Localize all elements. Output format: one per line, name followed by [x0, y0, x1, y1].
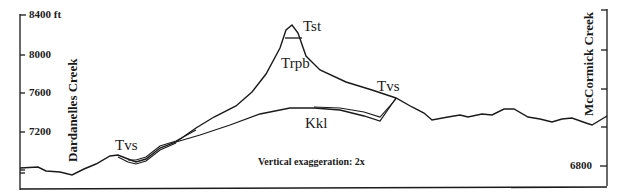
tick-label-6800: 6800: [570, 159, 592, 171]
baseline: [20, 187, 607, 189]
tick-label-8400: 8400 ft: [29, 8, 61, 20]
unit-label-kkl: Kkl: [305, 115, 328, 132]
ground-surface-line: [20, 25, 607, 175]
unit-label-trpb: Trpb: [281, 55, 310, 72]
place-label-mccormick-creek: McCormick Creek: [581, 12, 597, 116]
left-axis: [20, 14, 26, 190]
right-axis: [600, 9, 607, 186]
unit-label-tvs-left: Tvs: [115, 137, 138, 154]
tick-label-8000: 8000: [29, 48, 51, 60]
vertical-exaggeration-note: Vertical exaggeration: 2x: [258, 156, 365, 167]
tick-label-7600: 7600: [29, 86, 51, 98]
unit-label-tst: Tst: [303, 18, 321, 35]
place-label-dardanelles-creek: Dardanelles Creek: [65, 59, 81, 162]
tick-label-7200: 7200: [29, 125, 51, 137]
unit-label-tvs-right: Tvs: [377, 78, 400, 95]
